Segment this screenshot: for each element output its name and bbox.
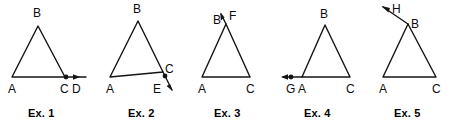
exercise-figure-4: B A C G Ex. 4 <box>278 0 368 128</box>
caption-ex-3: Ex. 3 <box>214 108 241 119</box>
vertex-label-c-4: C <box>346 83 355 95</box>
caption-ex-5: Ex. 5 <box>394 108 421 119</box>
vertex-label-c-2: C <box>165 63 174 75</box>
exercise-figure-3: B A C F Ex. 3 <box>192 0 278 128</box>
triangle-outline-3 <box>202 24 250 77</box>
vertex-label-e-2: E <box>153 83 161 95</box>
arrowhead-1 <box>73 74 80 80</box>
vertex-label-c-3: C <box>246 83 255 95</box>
caption-ex-4: Ex. 4 <box>304 108 331 119</box>
vertex-label-g-4: G <box>286 83 295 95</box>
vertex-label-b-3: B <box>213 14 221 26</box>
exercise-figure-2: B A C E Ex. 2 <box>100 0 192 128</box>
vertex-label-b-5: B <box>411 18 419 30</box>
exercise-figure-1: B A C D Ex. 1 <box>0 0 100 128</box>
point-marker-c-1 <box>64 75 69 80</box>
vertex-label-b-4: B <box>320 8 328 20</box>
vertex-label-a-4: A <box>298 83 306 95</box>
vertex-label-a-2: A <box>106 83 114 95</box>
vertex-label-h-5: H <box>392 3 401 15</box>
triangle-outline-1 <box>12 26 65 77</box>
arrowhead-2 <box>167 84 173 91</box>
caption-ex-2: Ex. 2 <box>128 108 155 119</box>
exercise-figure-5: H B A C Ex. 5 <box>368 0 458 128</box>
vertex-label-d-1: D <box>72 83 81 95</box>
vertex-label-b-1: B <box>33 7 41 19</box>
triangle-outline-2 <box>110 21 163 77</box>
triangle-outline-4 <box>302 25 350 77</box>
arrowhead-5 <box>382 6 390 12</box>
vertex-label-a-3: A <box>198 83 206 95</box>
geometry-figure-sheet: B A C D Ex. 1 B A C E Ex. 2 B A <box>0 0 458 128</box>
vertex-label-a-1: A <box>8 83 16 95</box>
triangle-outline-5 <box>383 24 436 77</box>
vertex-label-b-2: B <box>133 3 141 15</box>
vertex-label-f-3: F <box>229 10 236 22</box>
vertex-label-c-1: C <box>60 83 69 95</box>
point-marker-g-4 <box>289 75 294 80</box>
vertex-label-c-5: C <box>432 83 441 95</box>
caption-ex-1: Ex. 1 <box>28 108 55 119</box>
vertex-label-a-5: A <box>379 83 387 95</box>
arrowhead-4 <box>281 74 288 80</box>
